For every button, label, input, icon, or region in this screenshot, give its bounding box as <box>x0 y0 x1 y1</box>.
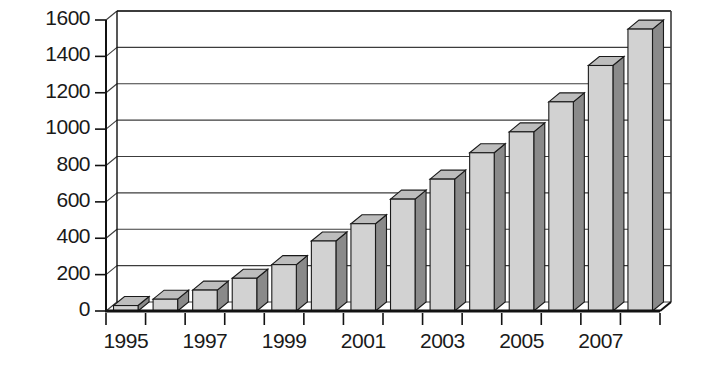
y-tick-label-1600: 1600 <box>45 6 90 30</box>
x-tick-label-2001: 2001 <box>323 329 403 353</box>
x-tick-label-1997: 1997 <box>165 329 245 353</box>
bar-front-face <box>509 132 534 311</box>
x-tick-label-2003: 2003 <box>402 329 482 353</box>
x-tick-label-1995: 1995 <box>86 329 166 353</box>
y-tick-label-800: 800 <box>56 152 90 176</box>
bar-front-face <box>391 199 416 311</box>
bar-2008 <box>628 20 664 311</box>
x-tick-label-2007: 2007 <box>561 329 641 353</box>
bar-side-face <box>652 20 663 311</box>
bar-2001 <box>351 215 387 311</box>
x-tick-label-1999: 1999 <box>244 329 324 353</box>
bar-side-face <box>494 144 505 311</box>
bar-side-face <box>336 232 347 311</box>
bar-1997 <box>193 281 229 311</box>
y-tick-label-1400: 1400 <box>45 42 90 66</box>
bar-front-face <box>351 224 376 311</box>
bar-front-face <box>193 290 218 311</box>
y-tick-label-1000: 1000 <box>45 115 90 139</box>
y-tick-label-200: 200 <box>56 261 90 285</box>
bar-front-face <box>430 179 455 311</box>
bar-front-face <box>628 29 653 311</box>
y-tick-label-600: 600 <box>56 188 90 212</box>
x-tick-label-2005: 2005 <box>482 329 562 353</box>
bar-2006 <box>549 93 585 311</box>
bar-front-face <box>588 65 613 311</box>
y-tick-label-1200: 1200 <box>45 79 90 103</box>
bar-front-face <box>311 241 336 311</box>
bar-front-face <box>549 102 574 311</box>
bar-2000 <box>311 232 347 311</box>
bar-side-face <box>375 215 386 311</box>
bar-2007 <box>588 56 624 311</box>
bar-front-face <box>272 265 297 311</box>
bar-side-face <box>415 190 426 311</box>
bar-side-face <box>613 56 624 311</box>
bar-front-face <box>470 153 495 311</box>
bar-1999 <box>272 256 308 311</box>
y-tick-label-400: 400 <box>56 224 90 248</box>
bar-front-face <box>232 278 257 311</box>
bar-1998 <box>232 269 268 311</box>
bar-front-face <box>153 299 178 311</box>
bar-2003 <box>430 170 466 311</box>
bar-2005 <box>509 123 545 311</box>
bar-side-face <box>534 123 545 311</box>
bar-2004 <box>470 144 506 311</box>
bar-side-face <box>573 93 584 311</box>
y-tick-label-0: 0 <box>79 297 90 321</box>
chart-canvas <box>0 0 704 367</box>
bar-2002 <box>391 190 427 311</box>
bar-chart: 02004006008001000120014001600 1995199719… <box>0 0 704 367</box>
bar-side-face <box>455 170 466 311</box>
